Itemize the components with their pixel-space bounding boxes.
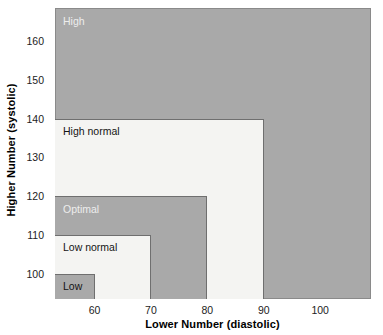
region-label-high: High (63, 16, 85, 27)
x-tick-label-90: 90 (249, 305, 279, 316)
y-axis-title-text: Higher Number (systolic) (5, 83, 17, 216)
region-label-high-normal: High normal (63, 126, 120, 137)
blood-pressure-category-chart: High High normal Optimal Low normal Low … (0, 0, 383, 335)
region-label-low-normal: Low normal (63, 242, 117, 253)
x-axis-title-text: Lower Number (diastolic) (145, 318, 279, 330)
x-axis-title: Lower Number (diastolic) (0, 318, 383, 330)
x-tick-label-60: 60 (80, 305, 110, 316)
x-tick-label-80: 80 (192, 305, 222, 316)
region-label-optimal: Optimal (63, 204, 99, 215)
plot-area: High High normal Optimal Low normal Low (55, 8, 371, 299)
region-label-low: Low (63, 281, 82, 292)
y-axis-title: Higher Number (systolic) (2, 0, 20, 299)
x-tick-label-100: 100 (305, 305, 335, 316)
x-tick-label-70: 70 (136, 305, 166, 316)
